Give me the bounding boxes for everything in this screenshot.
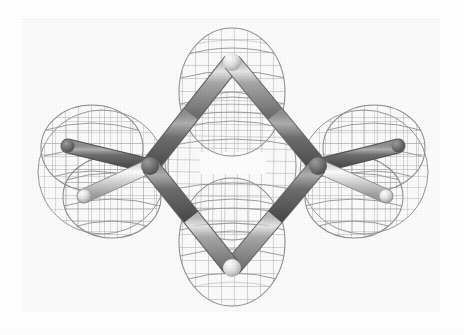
atom-H1 — [62, 140, 75, 153]
atom-C4 — [141, 157, 159, 175]
atom-C1 — [223, 53, 241, 71]
atom-H3 — [392, 140, 405, 153]
molecule-scene — [0, 0, 464, 335]
atom-C2 — [309, 157, 327, 175]
atom-H2 — [78, 190, 91, 203]
atom-H4 — [380, 190, 393, 203]
molecular-orbital-figure — [0, 0, 464, 335]
atom-C3 — [223, 259, 241, 277]
